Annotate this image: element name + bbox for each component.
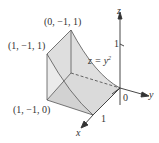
x-axis-label: x: [76, 128, 80, 138]
point-label-1-neg1-1: (1, −1, 1): [8, 41, 45, 51]
surface-equation-base: z = y: [88, 55, 108, 66]
x-tick-label: 1: [101, 114, 106, 124]
surface-equation: z = y2: [88, 55, 111, 66]
y-axis-arrow-icon: [141, 92, 149, 97]
y-axis-label: y: [149, 90, 153, 100]
z-axis-label: z: [117, 6, 121, 16]
z-tick: [120, 44, 124, 46]
point-label-0-neg1-1: (0, −1, 1): [44, 17, 81, 27]
origin-label: 0: [123, 93, 128, 103]
surface-equation-exponent: 2: [108, 55, 111, 61]
z-tick-label: 1: [114, 39, 119, 49]
point-label-1-neg1-0: (1, −1, 0): [13, 105, 50, 115]
